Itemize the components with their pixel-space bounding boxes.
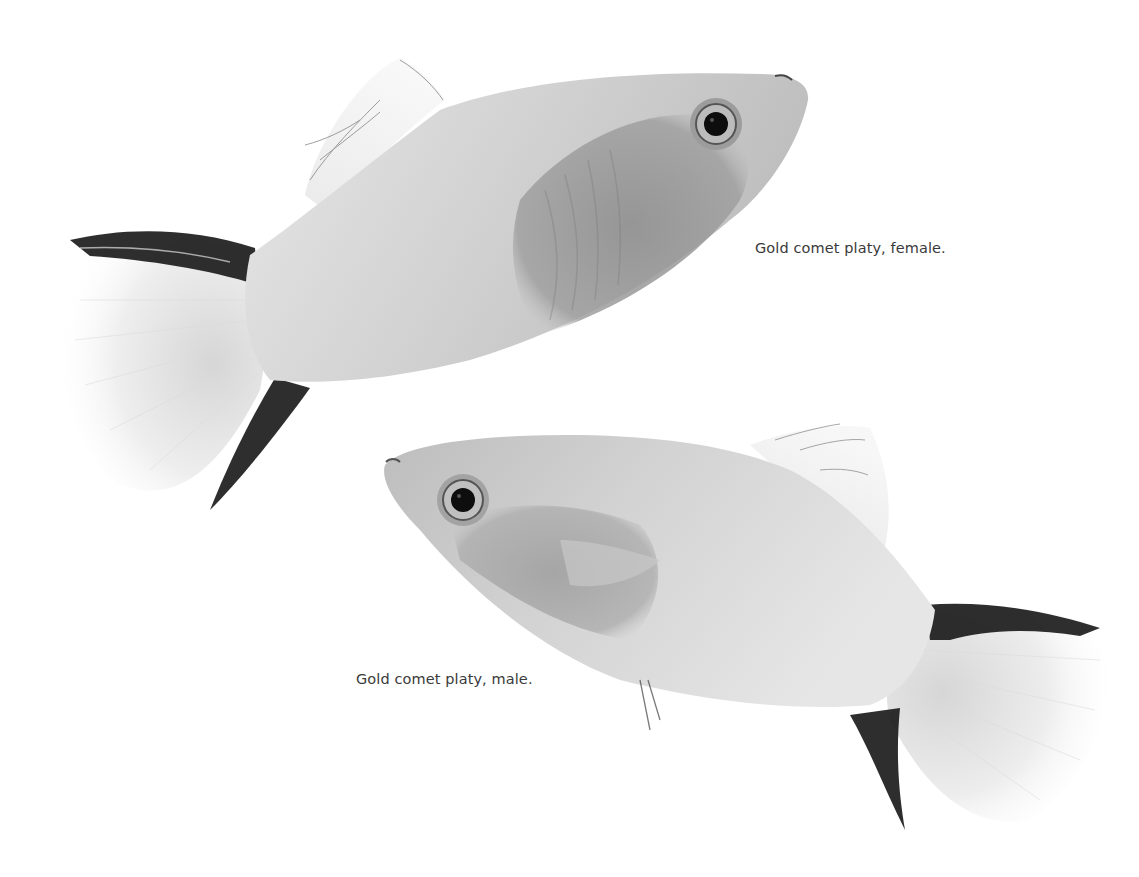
book-page: Gold comet platy, female. Gold comet pla… — [0, 0, 1139, 877]
caption-male: Gold comet platy, male. — [356, 671, 533, 687]
male-eye — [437, 474, 489, 526]
caption-female: Gold comet platy, female. — [755, 240, 946, 256]
male-platy-photo — [0, 0, 1139, 877]
